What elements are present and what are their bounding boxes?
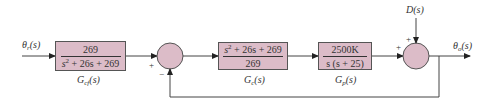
sum1-minus-sign: − [159,70,164,79]
fraction-bar [61,56,121,57]
gc-numerator: s2 + 26s + 269 [224,44,282,55]
fraction-bar [223,56,283,57]
summing-junction-1 [157,43,183,69]
gcf-label: Gcf(s) [77,75,100,85]
gp-label: Gp(s) [335,75,356,85]
gc-label: Gc(s) [244,75,265,85]
feedback-path [170,56,439,97]
sum1-plus-sign: + [149,61,154,70]
disturbance-label: D(s) [406,5,424,15]
summing-junction-2 [403,43,429,69]
gp-denominator: s (s + 25) [326,58,364,69]
sum2-plus-top-sign: + [406,35,411,44]
gc-denominator: 269 [246,58,261,69]
gp-numerator: 2500K [331,44,358,55]
block-gcf: 269 s2 + 26s + 269 [55,41,126,71]
block-gp: 2500K s (s + 25) [318,42,372,70]
input-label: θr(s) [22,40,40,50]
block-gc: s2 + 26s + 269 269 [218,42,288,70]
output-label: θo(s) [453,41,472,51]
gcf-denominator: s2 + 26s + 269 [62,58,120,69]
gcf-numerator: 269 [83,44,98,55]
fraction-bar [323,56,367,57]
sum2-plus-left-sign: + [396,43,401,52]
